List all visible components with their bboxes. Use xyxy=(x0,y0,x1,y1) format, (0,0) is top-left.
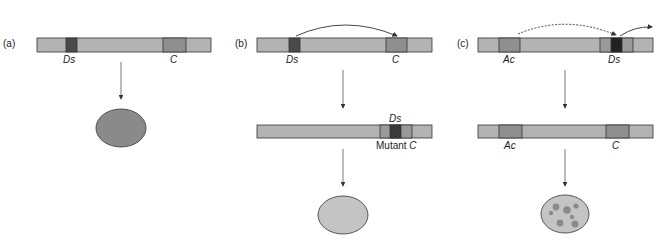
kernel-spotted xyxy=(541,195,589,233)
ds-element xyxy=(611,38,622,52)
ac-label: Ac xyxy=(502,54,515,65)
kernel-colorless xyxy=(318,196,368,234)
ds-label: Ds xyxy=(608,54,620,65)
transposon-diagram: (a) Ds C (b) Ds C Ds Mutant C xyxy=(0,0,669,246)
ds-element xyxy=(289,38,300,52)
panel-b-label: (b) xyxy=(235,38,247,49)
chromosome-b-top xyxy=(257,38,432,52)
c-label: C xyxy=(612,140,620,151)
panel-c-label: (c) xyxy=(457,38,469,49)
panel-b: (b) Ds C Ds Mutant C xyxy=(235,25,432,234)
chromosome-c-top xyxy=(478,38,653,52)
ds-label: Ds xyxy=(389,113,401,124)
ac-activation-arrow xyxy=(518,24,616,35)
ds-excision-arrow xyxy=(620,27,652,36)
chromosome-b-bottom xyxy=(257,125,432,138)
ac-element xyxy=(499,125,522,138)
transposition-arrow xyxy=(296,25,397,36)
ds-element xyxy=(390,125,401,138)
ds-label: Ds xyxy=(63,54,75,65)
panel-a-label: (a) xyxy=(3,38,15,49)
ac-label: Ac xyxy=(503,140,516,151)
ds-element xyxy=(66,38,77,52)
gene-c xyxy=(386,38,407,52)
chromosome-c-bottom xyxy=(478,125,653,138)
chromosome-a xyxy=(37,38,211,52)
ds-label: Ds xyxy=(286,54,298,65)
mutant-c-label: Mutant C xyxy=(376,140,417,151)
gene-c xyxy=(163,38,186,52)
c-label: C xyxy=(170,54,178,65)
gene-c xyxy=(606,125,629,138)
panel-a: (a) Ds C xyxy=(3,38,211,147)
panel-c: (c) Ac Ds Ac C xyxy=(457,24,653,233)
kernel-purple xyxy=(96,109,146,147)
c-label: C xyxy=(392,54,400,65)
ac-element xyxy=(499,38,520,52)
